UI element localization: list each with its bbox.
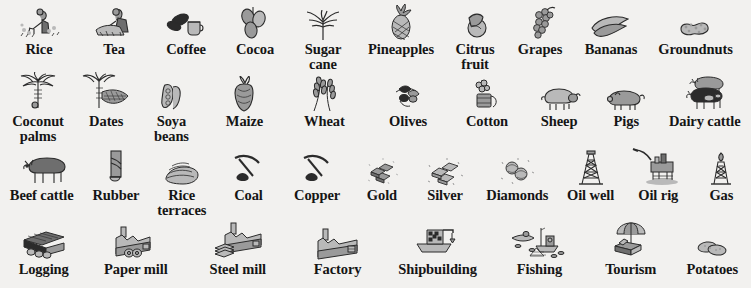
- symbol-beef-cattle: Beef cattle: [0, 148, 83, 203]
- symbol-dates: Dates: [76, 74, 136, 129]
- symbol-gold: Gold: [352, 148, 411, 203]
- sheep-icon: [524, 74, 594, 112]
- symbol-wheat: Wheat: [282, 74, 366, 129]
- pickaxe-ore-icon: [282, 148, 352, 186]
- diamonds-icon: [478, 148, 556, 186]
- symbol-cotton: Cotton: [450, 74, 524, 129]
- groundnuts-icon: [648, 2, 743, 40]
- symbol-label: Logging: [19, 262, 69, 277]
- symbol-shipbuilding: Shipbuilding: [384, 222, 491, 277]
- symbol-label: Factory: [314, 262, 362, 277]
- paper-mill-icon: [87, 222, 184, 260]
- steel-mill-icon: [184, 222, 291, 260]
- symbol-label: Potatoes: [686, 262, 738, 277]
- symbol-label: Bananas: [585, 42, 638, 57]
- oil-derrick-icon: [556, 148, 625, 186]
- symbol-label: Tea: [103, 42, 125, 57]
- symbol-fishing: Fishing: [491, 222, 588, 277]
- symbol-row-crops-secondary: Coconut palms Dates Soya beans Maize Whe…: [0, 74, 751, 143]
- symbol-logging: Logging: [0, 222, 87, 277]
- symbol-label: Sheep: [541, 114, 578, 129]
- symbol-label: Wheat: [304, 114, 345, 129]
- symbol-diamonds: Diamonds: [478, 148, 556, 203]
- symbol-paper-mill: Paper mill: [87, 222, 184, 277]
- symbol-label: Paper mill: [104, 262, 168, 277]
- symbol-groundnuts: Groundnuts: [648, 2, 743, 57]
- symbol-row-crops-primary: Rice Tea Coffee Cocoa Sugar cane Pineapp…: [0, 2, 751, 71]
- symbol-citrus-fruit: Citrus fruit: [444, 2, 506, 71]
- symbol-label: Diamonds: [486, 188, 548, 203]
- sugar-cane-icon: [288, 2, 358, 40]
- coconut-palm-icon: [0, 74, 76, 112]
- symbol-pineapples: Pineapples: [358, 2, 444, 57]
- symbol-olives: Olives: [366, 74, 450, 129]
- cotton-bale-icon: [450, 74, 524, 112]
- symbol-rice-terraces: Rice terraces: [148, 148, 215, 217]
- symbol-label: Cotton: [466, 114, 508, 129]
- symbol-rubber: Rubber: [83, 148, 148, 203]
- grapes-icon: [506, 2, 574, 40]
- symbol-maize: Maize: [207, 74, 283, 129]
- symbol-label: Dairy cattle: [669, 114, 741, 129]
- symbol-label: Dates: [89, 114, 123, 129]
- symbols-key-sheet: Rice Tea Coffee Cocoa Sugar cane Pineapp…: [0, 0, 751, 288]
- symbol-row-industry: Logging Paper mill Steel mill Factory Sh…: [0, 222, 751, 277]
- oil-rig-icon: [625, 148, 692, 186]
- tea-picker-icon: [78, 2, 150, 40]
- symbol-label: Soya beans: [154, 114, 189, 143]
- symbol-coffee: Coffee: [150, 2, 222, 57]
- symbol-steel-mill: Steel mill: [184, 222, 291, 277]
- symbol-bananas: Bananas: [574, 2, 648, 57]
- symbol-label: Gas: [709, 188, 733, 203]
- symbol-label: Shipbuilding: [398, 262, 477, 277]
- rice-terraces-icon: [148, 148, 215, 186]
- pig-icon: [594, 74, 658, 112]
- symbol-oil-well: Oil well: [556, 148, 625, 203]
- symbol-label: Rubber: [92, 188, 139, 203]
- symbol-label: Tourism: [605, 262, 656, 277]
- pineapple-icon: [358, 2, 444, 40]
- symbol-dairy-cattle: Dairy cattle: [658, 74, 751, 129]
- rice-farmer-icon: [0, 2, 78, 40]
- symbol-sugar-cane: Sugar cane: [288, 2, 358, 71]
- symbol-label: Beef cattle: [10, 188, 74, 203]
- symbol-rice: Rice: [0, 2, 78, 57]
- silver-ingots-icon: [412, 148, 479, 186]
- symbol-label: Cocoa: [236, 42, 274, 57]
- symbol-label: Groundnuts: [658, 42, 733, 57]
- symbol-label: Citrus fruit: [456, 42, 495, 71]
- coffee-beans-icon: [150, 2, 222, 40]
- symbol-label: Oil rig: [638, 188, 678, 203]
- gold-ingots-icon: [352, 148, 411, 186]
- rubber-tree-icon: [83, 148, 148, 186]
- symbol-label: Rice terraces: [157, 188, 206, 217]
- symbol-gas: Gas: [692, 148, 751, 203]
- symbol-label: Silver: [427, 188, 463, 203]
- symbol-silver: Silver: [412, 148, 479, 203]
- symbol-label: Copper: [294, 188, 340, 203]
- symbol-potatoes: Potatoes: [673, 222, 751, 277]
- symbol-label: Pineapples: [368, 42, 434, 57]
- beef-cattle-icon: [0, 148, 83, 186]
- olives-icon: [366, 74, 450, 112]
- symbol-tea: Tea: [78, 2, 150, 57]
- symbol-cocoa: Cocoa: [222, 2, 288, 57]
- symbol-copper: Copper: [282, 148, 352, 203]
- symbol-label: Gold: [367, 188, 397, 203]
- potatoes-icon: [673, 222, 751, 260]
- symbol-soya-beans: Soya beans: [136, 74, 206, 143]
- symbol-label: Grapes: [518, 42, 563, 57]
- symbol-label: Coffee: [166, 42, 206, 57]
- symbol-sheep: Sheep: [524, 74, 594, 129]
- symbol-row-livestock-minerals: Beef cattle Rubber Rice terraces Coal Co…: [0, 148, 751, 217]
- symbol-label: Fishing: [517, 262, 562, 277]
- symbol-grapes: Grapes: [506, 2, 574, 57]
- symbol-tourism: Tourism: [588, 222, 673, 277]
- soya-beans-icon: [136, 74, 206, 112]
- symbol-label: Pigs: [614, 114, 639, 129]
- symbol-label: Steel mill: [209, 262, 266, 277]
- pickaxe-coal-icon: [215, 148, 282, 186]
- symbol-label: Olives: [389, 114, 427, 129]
- logs-stack-icon: [0, 222, 87, 260]
- bananas-icon: [574, 2, 648, 40]
